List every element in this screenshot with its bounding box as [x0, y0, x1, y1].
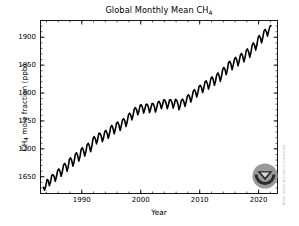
credit-watermark: NOAA Global Monitoring Laboratory: [279, 140, 289, 212]
noaa-seal-logo: [251, 162, 279, 190]
plot-area: [0, 0, 299, 226]
plot-frame: [41, 21, 278, 194]
chart-figure: Global Monthly Mean CH4 CH4 mole fractio…: [0, 0, 299, 226]
credit-text: NOAA Global Monitoring Laboratory: [282, 140, 286, 212]
